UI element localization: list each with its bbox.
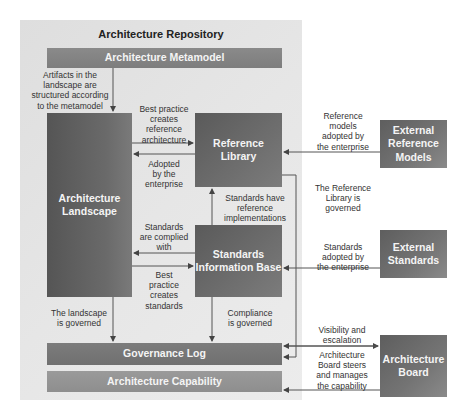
label-landscape-governed: The landscapeis governed <box>47 308 111 328</box>
label-board-steers: ArchitectureBoard steers and managesthe … <box>304 350 380 391</box>
label-ref-models-adopted: Referencemodels adopted bythe enterprise <box>308 111 378 152</box>
label-best-practice-ref-arch: Best practicecreates referencearchitectu… <box>134 104 194 145</box>
label-standards-adopted: Standardsadopted by the enterprise <box>306 242 380 273</box>
label-compliance-governed: Complianceis governed <box>218 308 282 328</box>
label-adopted-by-enterprise: Adoptedby the enterprise <box>134 159 194 190</box>
label-standards-complied: Standardsare complied with <box>134 222 194 253</box>
label-standards-have-ref-impl: Standards havereference implementations <box>214 193 296 224</box>
label-ref-library-governed: The ReferenceLibrary is governed <box>308 183 378 214</box>
label-visibility-escalation: Visibility andescalation <box>304 325 380 345</box>
label-best-practice-standards: Bestpractice createsstandards <box>134 270 194 311</box>
label-artifacts-structured: Artifacts in thelandscape are structured… <box>22 70 118 111</box>
